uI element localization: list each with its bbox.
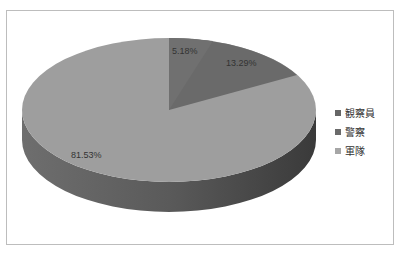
label-observer: 5.18% [172,46,198,56]
label-police: 13.29% [226,58,257,68]
legend-item-army: 軍隊 [335,141,375,160]
legend-item-police: 警察 [335,122,375,141]
legend-label: 警察 [345,124,365,139]
legend-swatch [335,129,341,135]
label-army: 81.53% [71,150,102,160]
legend-swatch [335,148,341,154]
legend-item-observer: 観察員 [335,103,375,122]
legend-swatch [335,110,341,116]
legend: 観察員 警察 軍隊 [335,103,375,160]
legend-label: 観察員 [345,105,375,120]
legend-label: 軍隊 [345,143,365,158]
